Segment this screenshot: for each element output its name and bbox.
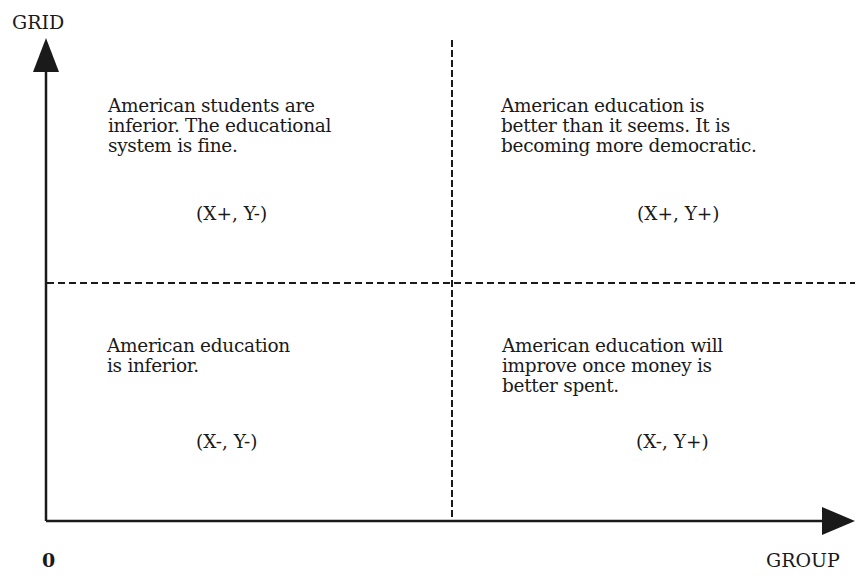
x-axis-label: GROUP [766,550,840,571]
y-axis-arrowhead-icon [33,38,59,72]
grid-group-diagram [0,0,867,588]
quadrant-top-left-coords: (X+, Y-) [196,204,267,224]
quadrant-bottom-left-coords: (X-, Y-) [196,432,257,452]
y-axis-label: GRID [12,12,64,33]
quadrant-bottom-left-text: American education is inferior. [107,336,290,376]
origin-label: 0 [42,550,55,571]
quadrant-bottom-right-coords: (X-, Y+) [636,432,709,452]
quadrant-bottom-right-text: American education will improve once mon… [502,336,723,396]
quadrant-top-right-coords: (X+, Y+) [637,204,720,224]
quadrant-top-right-text: American education is better than it see… [501,96,757,156]
quadrant-top-left-text: American students are inferior. The educ… [108,96,331,156]
x-axis-arrowhead-icon [822,507,855,535]
